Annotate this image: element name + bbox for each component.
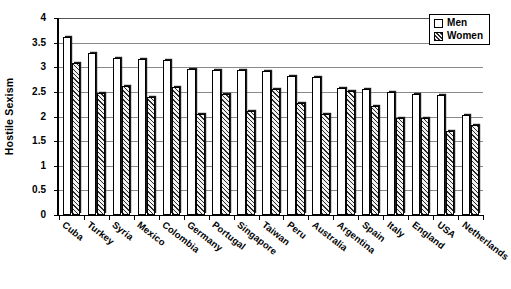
bar-group <box>84 18 109 215</box>
y-axis-tick-label: 3 <box>0 61 46 72</box>
legend-label-men: Men <box>447 18 467 28</box>
bar-men <box>63 37 71 215</box>
bar-men <box>262 71 270 215</box>
bar-women <box>196 114 204 215</box>
legend: Men Women <box>429 14 490 45</box>
bar-men <box>113 58 121 215</box>
plot-area <box>57 18 483 216</box>
x-axis-label-italy: Italy <box>385 219 407 240</box>
bar-women <box>296 103 304 215</box>
bar-women <box>122 86 130 215</box>
white-square-icon <box>434 19 443 28</box>
bar-group <box>433 18 458 215</box>
bar-series-container <box>59 18 483 215</box>
bar-group <box>59 18 84 215</box>
bar-group <box>259 18 284 215</box>
bar-men <box>462 115 470 215</box>
hatched-square-icon <box>434 32 443 41</box>
bar-women <box>246 111 254 215</box>
legend-item-men: Men <box>434 18 483 28</box>
bar-men <box>237 70 245 215</box>
bar-group <box>458 18 483 215</box>
bar-group <box>383 18 408 215</box>
y-axis-tick-label: 0.5 <box>0 184 46 195</box>
bar-women <box>346 91 354 215</box>
bar-men <box>187 69 195 215</box>
bar-women <box>172 87 180 215</box>
legend-item-women: Women <box>434 31 483 41</box>
bar-women <box>421 118 429 215</box>
bar-men <box>362 89 370 215</box>
bar-men <box>88 53 96 215</box>
bar-women <box>271 89 279 215</box>
bar-women <box>147 97 155 215</box>
bar-group <box>283 18 308 215</box>
bar-men <box>337 88 345 215</box>
bar-men <box>412 94 420 215</box>
bar-women <box>97 93 105 215</box>
y-axis-tick-label: 1.5 <box>0 135 46 146</box>
bar-women <box>471 125 479 215</box>
bar-men <box>287 76 295 215</box>
bar-women <box>221 94 229 215</box>
y-axis-tick-label: 1 <box>0 160 46 171</box>
bar-men <box>387 92 395 215</box>
y-axis-tick-label: 4 <box>0 12 46 23</box>
legend-label-women: Women <box>447 31 483 41</box>
bar-men <box>163 60 171 215</box>
y-axis-tick-label: 0 <box>0 209 46 220</box>
y-axis-tick-label: 3.5 <box>0 37 46 48</box>
bar-women <box>446 131 454 215</box>
bar-group <box>408 18 433 215</box>
bar-group <box>184 18 209 215</box>
bar-women <box>72 63 80 215</box>
bar-men <box>212 70 220 215</box>
y-axis-tick-label: 2 <box>0 111 46 122</box>
bar-women <box>371 106 379 215</box>
bar-women <box>396 118 404 215</box>
bar-group <box>234 18 259 215</box>
bar-women <box>321 114 329 215</box>
bar-group <box>308 18 333 215</box>
bar-men <box>138 59 146 215</box>
bar-group <box>109 18 134 215</box>
bar-group <box>159 18 184 215</box>
bar-group <box>358 18 383 215</box>
bar-group <box>134 18 159 215</box>
bar-men <box>437 95 445 215</box>
y-axis-tick-label: 2.5 <box>0 86 46 97</box>
x-axis-label-netherlands: Netherlands <box>460 219 511 262</box>
bar-men <box>312 77 320 215</box>
x-axis-category-labels: CubaTurkeySyriaMexicoColombiaGermanyPort… <box>57 219 487 289</box>
x-axis-label-cuba: Cuba <box>61 219 87 243</box>
bar-group <box>209 18 234 215</box>
bar-group <box>333 18 358 215</box>
